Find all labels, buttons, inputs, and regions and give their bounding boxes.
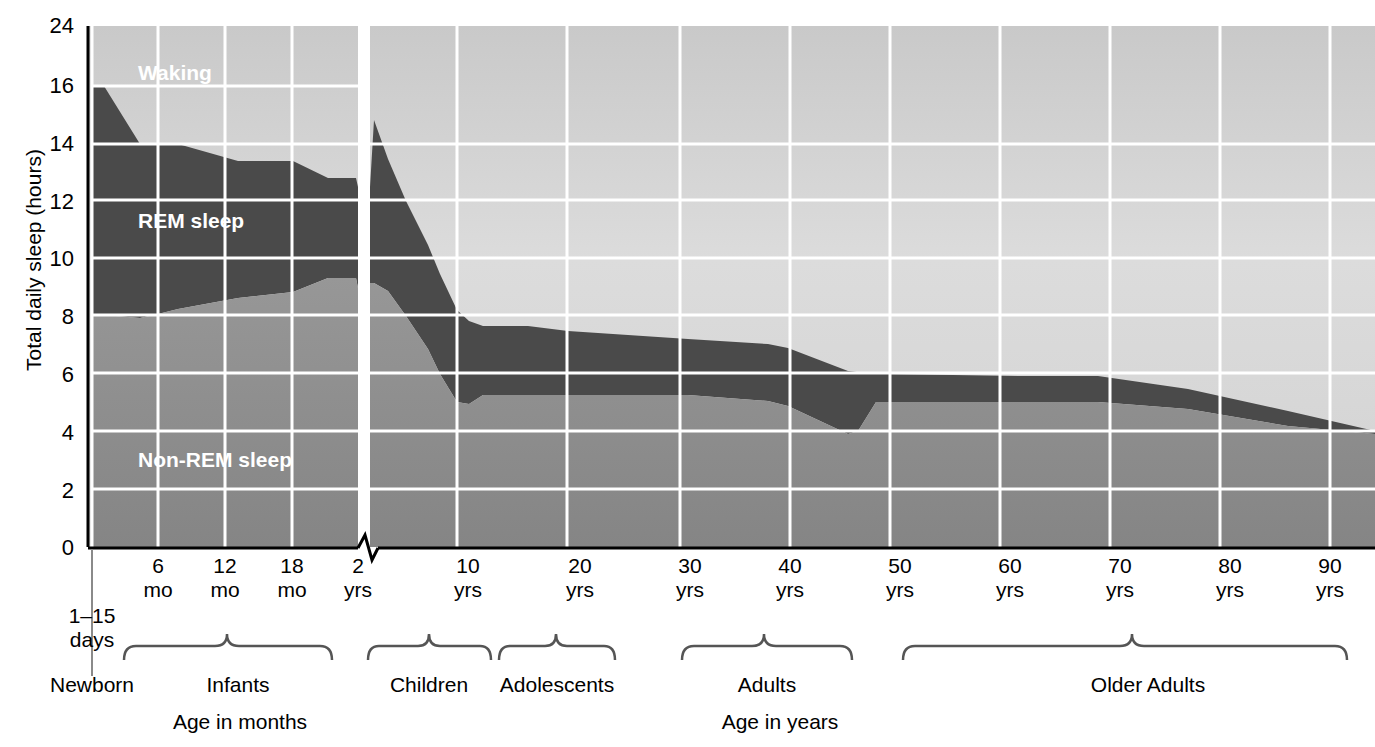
x-tick-80yrs: 80 yrs [1185,554,1275,601]
x-tick-20yrs: 20 yrs [535,554,625,601]
group-label-adolescents: Adolescents [487,673,627,697]
group-label-infants: Infants [158,673,318,697]
x-tick-2yrs: 2 yrs [313,554,403,601]
bracket-adults [682,634,852,660]
bracket-children [368,634,491,660]
group-label-children: Children [359,673,499,697]
x-tick-70yrs: 70 yrs [1075,554,1165,601]
bracket-adolescents [499,634,615,660]
x-tick-10yrs: 10 yrs [423,554,513,601]
x-axis-caption-months: Age in months [140,710,340,734]
x-tick-60yrs: 60 yrs [965,554,1055,601]
bracket-older-adults [903,634,1347,660]
x-tick-50yrs: 50 yrs [855,554,945,601]
age-group-brackets [0,600,1375,680]
bracket-infants [124,634,332,660]
x-tick-40yrs: 40 yrs [745,554,835,601]
x-tick-90yrs: 90 yrs [1285,554,1375,601]
x-tick-30yrs: 30 yrs [645,554,735,601]
chart-canvas: Total daily sleep (hours) 24 16 14 12 10… [0,0,1375,747]
group-label-adults: Adults [697,673,837,697]
group-label-newborn: Newborn [22,673,162,697]
x-axis-caption-years: Age in years [680,710,880,734]
group-label-older-adults: Older Adults [1048,673,1248,697]
